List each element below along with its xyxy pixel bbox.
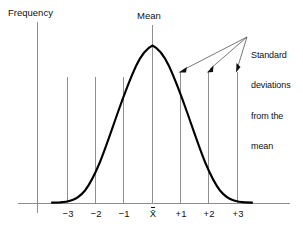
x-tick-label-minus-2: −2 [84,208,108,219]
mean-label: Mean [137,11,161,22]
x-bar-glyph: X̄ [150,208,156,219]
annotation-line-2: deviations [251,80,291,90]
x-tick-label-minus-1: −1 [112,208,136,219]
x-tick-label-mean: X̄ [141,208,165,219]
standard-deviations-annotation: Standard deviations from the mean [251,30,291,171]
annotation-line-4: mean [251,141,291,151]
annotation-arrowhead-1 [179,67,188,73]
y-axis-title: Frequency [8,8,53,19]
annotation-line-3: from the [251,111,291,121]
x-tick-label-plus-2: +2 [197,208,221,219]
x-tick-label-plus-1: +1 [169,208,193,219]
x-tick-label-minus-3: −3 [56,208,80,219]
normal-distribution-figure: Frequency Mean Standard deviations from … [0,0,303,238]
x-tick-label-plus-3: +3 [226,208,250,219]
annotation-line-1: Standard [251,50,291,60]
